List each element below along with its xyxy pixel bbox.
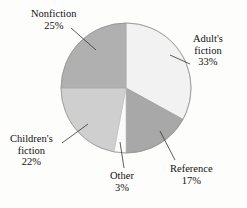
slice-label-other: Other 3% — [110, 170, 134, 193]
slice-label-adults-fiction-value: 33% — [193, 56, 223, 68]
slice-label-nonfiction-name: Nonfiction — [31, 8, 77, 20]
slice-label-adults-fiction: Adult's fiction 33% — [193, 33, 223, 68]
slice-label-childrens-fiction-value: 22% — [10, 156, 53, 168]
pie-slice-nonfiction[interactable] — [61, 23, 126, 88]
pie-chart-figure: Nonfiction 25% Adult's fiction 33% Refer… — [0, 0, 247, 208]
slice-label-other-value: 3% — [110, 182, 134, 194]
slice-label-adults-fiction-name-1: Adult's — [193, 33, 223, 45]
slice-label-reference: Reference 17% — [170, 163, 213, 186]
slice-label-childrens-fiction: Children's fiction 22% — [10, 133, 53, 168]
slice-label-reference-value: 17% — [170, 175, 213, 187]
slice-label-nonfiction: Nonfiction 25% — [31, 8, 77, 31]
slice-label-childrens-fiction-name-2: fiction — [10, 145, 53, 157]
slice-label-childrens-fiction-name-1: Children's — [10, 133, 53, 145]
slice-label-other-name: Other — [110, 170, 134, 182]
slice-label-nonfiction-value: 25% — [31, 20, 77, 32]
slice-label-reference-name: Reference — [170, 163, 213, 175]
slice-label-adults-fiction-name-2: fiction — [193, 45, 223, 57]
